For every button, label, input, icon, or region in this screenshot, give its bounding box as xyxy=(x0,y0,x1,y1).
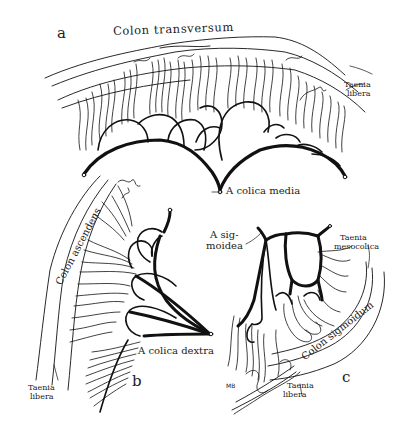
vessel-drawing xyxy=(0,0,409,431)
artist-signature: MB xyxy=(226,383,235,389)
label-taenia-libera-a: Taenia libera xyxy=(344,80,371,98)
arcades-a xyxy=(98,102,340,166)
panel-letter-c: c xyxy=(342,370,350,385)
label-a-colica-media: A colica media xyxy=(226,186,300,196)
label-taenia-libera-c-line1: Taenia xyxy=(283,381,314,390)
label-taenia-libera-b-line1: Taenia xyxy=(28,383,55,392)
label-taenia-mesocolica-line1: Taenia xyxy=(334,233,379,242)
label-taenia-mesocolica-line2: mesocolica xyxy=(334,242,379,251)
vasa-recta-b xyxy=(70,180,140,406)
label-a-sigmoidea: A sig- moidea xyxy=(206,229,243,251)
label-a-sigmoidea-line1: A sig- xyxy=(206,229,243,240)
label-taenia-libera-c-line2: libera xyxy=(283,390,314,399)
colon-ascendens-wall xyxy=(36,176,116,390)
a-colica-media-trunk xyxy=(84,140,345,190)
arcades-c xyxy=(247,240,320,342)
panel-letter-b: b xyxy=(132,374,142,389)
label-a-colica-dextra: A colica dextra xyxy=(138,346,214,356)
label-taenia-libera-a-line2: libera xyxy=(344,89,371,98)
label-taenia-libera-b-line2: libera xyxy=(28,392,55,401)
label-taenia-libera-c: Taenia libera xyxy=(283,381,314,399)
colon-transversum-wall xyxy=(45,37,365,112)
label-a-sigmoidea-line2: moidea xyxy=(206,240,243,251)
label-taenia-mesocolica: Taenia mesocolica xyxy=(334,233,379,251)
label-taenia-libera-a-line1: Taenia xyxy=(344,80,371,89)
label-taenia-libera-b: Taenia libera xyxy=(28,383,55,401)
anatomical-figure: a Colon transversum Taenia libera A coli… xyxy=(0,0,409,431)
vasa-recta-a xyxy=(78,54,345,152)
panel-letter-a: a xyxy=(57,26,66,41)
